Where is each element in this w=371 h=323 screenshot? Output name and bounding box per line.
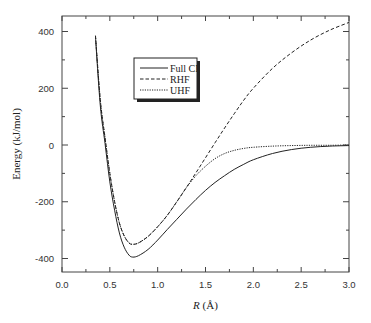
- legend: Full CI RHF UHF: [134, 58, 200, 102]
- x-tick-label: 2.5: [295, 279, 308, 290]
- x-tick-label: 0.0: [55, 279, 68, 290]
- y-tick-label: 0: [49, 140, 54, 151]
- x-tick-label: 0.5: [103, 279, 116, 290]
- y-tick-label: -400: [35, 253, 54, 264]
- legend-label-full-ci: Full CI: [170, 63, 199, 74]
- y-tick-label: -200: [35, 196, 54, 207]
- y-tick-label: 400: [38, 26, 54, 37]
- x-tick-label: 3.0: [342, 279, 355, 290]
- x-tick-label: 1.5: [199, 279, 212, 290]
- legend-label-uhf: UHF: [170, 85, 190, 96]
- y-tick-label: 200: [38, 83, 54, 94]
- potential-energy-chart: 0.00.51.01.52.02.53.0 -400-2000200400 R …: [0, 0, 371, 323]
- legend-label-rhf: RHF: [170, 74, 190, 85]
- y-axis-label: Energy (kJ/mol): [10, 108, 23, 180]
- x-axis-ticks: 0.00.51.01.52.02.53.0: [55, 16, 355, 290]
- x-tick-label: 1.0: [151, 279, 164, 290]
- x-axis-label: R (Å): [192, 299, 218, 312]
- x-tick-label: 2.0: [247, 279, 260, 290]
- series-line-rhf: [95, 22, 349, 244]
